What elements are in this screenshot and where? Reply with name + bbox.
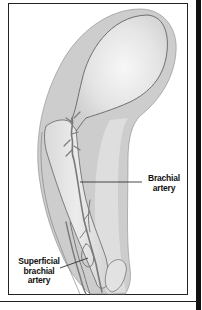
label-line: artery [13,276,65,286]
label-line: artery [142,184,186,194]
label-superficial-brachial-artery: Superficial brachial artery [13,257,65,286]
label-brachial-artery: Brachial artery [142,174,186,193]
